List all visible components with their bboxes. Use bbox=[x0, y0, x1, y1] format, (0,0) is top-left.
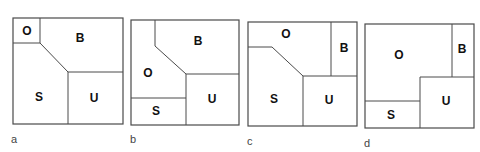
panel-c-region-u: U bbox=[325, 93, 334, 107]
panel-d-region-b: B bbox=[458, 42, 467, 56]
panel-d-region-o: O bbox=[394, 48, 403, 62]
panel-b-region-s: S bbox=[152, 104, 160, 118]
panel-c-region-b: B bbox=[340, 41, 349, 55]
panel-d-region-u: U bbox=[442, 94, 451, 108]
panel-a: O B S U a bbox=[11, 18, 123, 145]
panel-a-region-u: U bbox=[90, 91, 99, 105]
panel-a-caption: a bbox=[11, 133, 18, 145]
panel-d: O B U S d bbox=[364, 24, 474, 149]
panel-a-region-s: S bbox=[35, 90, 43, 104]
panel-b-region-u: U bbox=[208, 92, 217, 106]
panel-a-diagonal bbox=[40, 43, 68, 72]
panel-d-region-s: S bbox=[387, 108, 395, 122]
panel-b-region-b: B bbox=[194, 34, 203, 48]
panel-b-caption: b bbox=[130, 133, 136, 145]
panel-c: O B S U c bbox=[247, 22, 357, 147]
panel-b: B O U S b bbox=[130, 20, 239, 145]
panel-c-region-s: S bbox=[270, 92, 278, 106]
floorplan-diagram: O B S U a B O U S b O B S U c O B U S bbox=[0, 0, 480, 152]
panel-a-region-o: O bbox=[22, 24, 31, 38]
panel-c-region-o: O bbox=[281, 27, 290, 41]
panel-c-caption: c bbox=[247, 135, 253, 147]
panel-a-region-b: B bbox=[76, 31, 85, 45]
panel-b-region-o: O bbox=[143, 66, 152, 80]
panel-d-caption: d bbox=[364, 137, 370, 149]
